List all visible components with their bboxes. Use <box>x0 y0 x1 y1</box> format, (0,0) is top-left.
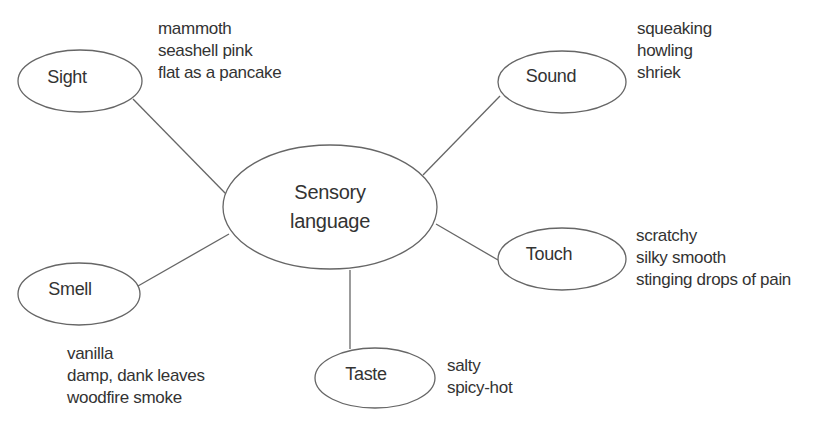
center-label-line-1: Sensory <box>290 178 370 207</box>
center-node-label: Sensory language <box>290 178 370 236</box>
smell-node-label: Smell <box>48 279 92 300</box>
touch-word: stinging drops of pain <box>636 269 791 291</box>
sight-words: mammoth seashell pink flat as a pancake <box>158 18 281 84</box>
smell-word: vanilla <box>67 343 205 365</box>
sound-word: howling <box>637 40 712 62</box>
sight-word: flat as a pancake <box>158 62 281 84</box>
smell-word: woodfire smoke <box>67 387 205 409</box>
sight-word: mammoth <box>158 18 281 40</box>
connector-sight <box>133 99 226 194</box>
touch-word: silky smooth <box>636 247 791 269</box>
touch-words: scratchy silky smooth stinging drops of … <box>636 225 791 291</box>
sound-node-label: Sound <box>526 66 577 87</box>
sound-word: shriek <box>637 62 712 84</box>
smell-words: vanilla damp, dank leaves woodfire smoke <box>67 343 205 409</box>
sound-word: squeaking <box>637 18 712 40</box>
center-label-line-2: language <box>290 207 370 236</box>
smell-word: damp, dank leaves <box>67 365 205 387</box>
sight-word: seashell pink <box>158 40 281 62</box>
connector-touch <box>436 224 498 260</box>
sound-words: squeaking howling shriek <box>637 18 712 84</box>
connector-sound <box>423 96 500 175</box>
sight-node-label: Sight <box>47 67 87 88</box>
taste-node-label: Taste <box>345 364 387 385</box>
touch-word: scratchy <box>636 225 791 247</box>
taste-words: salty spicy-hot <box>447 355 512 399</box>
taste-word: salty <box>447 355 512 377</box>
connector-smell <box>138 234 229 286</box>
touch-node-label: Touch <box>526 244 573 265</box>
taste-word: spicy-hot <box>447 377 512 399</box>
